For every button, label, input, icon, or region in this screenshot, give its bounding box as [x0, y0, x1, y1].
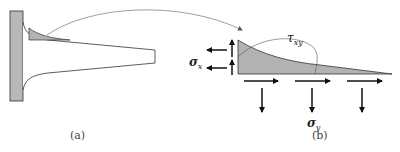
tau-xy-label: τxy: [287, 29, 303, 45]
fin-shaded-detail: [29, 28, 70, 40]
caption-a: (a): [70, 130, 85, 141]
sigma-y-symbol: σ: [307, 116, 316, 130]
stress-region: [238, 40, 392, 74]
sigma-x-symbol: σ: [189, 55, 198, 69]
wall: [10, 11, 23, 101]
tau-symbol: τ: [287, 31, 294, 45]
sigma-y-label: σy: [307, 114, 320, 130]
caption-b: (b): [312, 130, 328, 141]
tau-subscript: xy: [294, 38, 303, 47]
sigma-x-subscript: x: [198, 62, 203, 71]
diagram-canvas: [0, 0, 400, 152]
sigma-x-label: σx: [189, 53, 202, 69]
fin-outline: [23, 22, 155, 90]
zoom-arc: [47, 10, 242, 35]
